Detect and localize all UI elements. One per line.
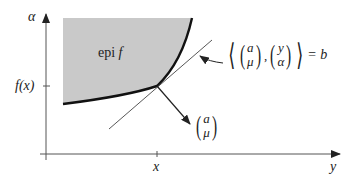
fx-tick-label: f(x) (15, 79, 34, 93)
normal-bottom: μ (203, 126, 210, 140)
epi-func: f (119, 45, 123, 60)
left-vector: ( a μ ) (238, 41, 263, 69)
diagram-canvas (0, 0, 354, 180)
equation-rhs: = b (307, 48, 327, 62)
hyperplane-equation: ⟨ ( a μ ) , ( y α ) ⟩ = b (226, 40, 327, 70)
right-vector: ( y α ) (268, 41, 293, 69)
lparen-1: ( (240, 41, 245, 69)
rparen-1: ) (256, 41, 261, 69)
epigraph-region (63, 18, 192, 104)
left-vector-components: a μ (247, 41, 254, 68)
lparen-2: ( (270, 41, 275, 69)
rparen-2: ) (286, 41, 291, 69)
y-axis-label: y (330, 160, 336, 174)
left-vec-bottom: μ (247, 55, 254, 69)
x-tick-label: x (153, 160, 159, 174)
normal-vector-components: a μ (203, 112, 210, 139)
right-paren: ) (212, 112, 217, 140)
normal-top: a (203, 112, 210, 126)
normal-vector-arrow (157, 86, 190, 124)
alpha-axis-label: α (28, 10, 35, 24)
epigraph-label: epi f (98, 46, 123, 60)
separator: , (264, 49, 267, 62)
left-vec-top: a (247, 41, 254, 55)
left-paren: ( (196, 112, 201, 140)
left-angle: ⟨ (228, 40, 235, 70)
right-vec-top: y (278, 41, 284, 55)
epi-prefix: epi (98, 45, 115, 60)
right-vec-bottom: α (277, 55, 284, 69)
right-vector-components: y α (277, 41, 284, 68)
normal-vector-label: ( a μ ) (194, 112, 219, 140)
right-angle: ⟩ (296, 40, 303, 70)
equation-pointer-arrow (200, 56, 223, 63)
